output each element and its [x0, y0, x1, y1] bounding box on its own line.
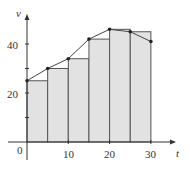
x-axis-arrow-icon — [170, 140, 176, 145]
riemann-rectangle — [68, 59, 89, 142]
x-tick-label-20: 20 — [104, 148, 116, 160]
data-point — [87, 37, 91, 41]
x-tick-label-30: 30 — [145, 148, 157, 160]
data-point — [149, 40, 153, 44]
y-axis-label: v — [16, 7, 21, 19]
data-point — [108, 28, 112, 32]
x-tick-label-10: 10 — [63, 148, 75, 160]
y-tick-label-40: 40 — [7, 39, 19, 51]
data-point — [128, 30, 132, 34]
y-axis-arrow-icon — [25, 14, 30, 20]
data-point — [46, 67, 50, 71]
riemann-rectangle — [48, 69, 69, 143]
riemann-sum-chart: v t 0 10 20 30 20 40 — [0, 0, 190, 170]
origin-label: 0 — [17, 144, 23, 156]
rectangles — [27, 29, 151, 142]
riemann-rectangle — [110, 29, 131, 142]
riemann-rectangle — [89, 39, 110, 142]
data-point — [67, 57, 71, 61]
x-axis-label: t — [176, 147, 180, 159]
y-tick-label-20: 20 — [7, 88, 19, 100]
riemann-rectangle — [27, 81, 48, 142]
riemann-rectangle — [130, 32, 151, 142]
